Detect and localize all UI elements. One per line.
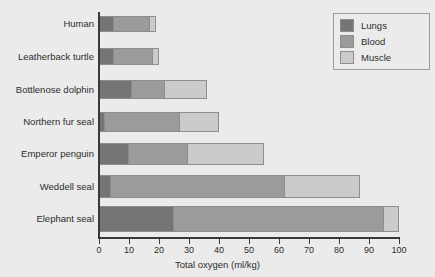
x-tick-mark (309, 239, 310, 244)
bar-segment-blood (111, 175, 285, 198)
x-tick-mark (189, 239, 190, 244)
bar-segment-lungs (99, 175, 111, 198)
y-axis-line (98, 12, 100, 239)
bar-segment-blood (114, 16, 150, 32)
bar-segment-blood (114, 48, 153, 65)
x-tick-label: 80 (334, 245, 344, 255)
bar-segment-lungs (99, 80, 132, 99)
x-tick-mark (219, 239, 220, 244)
x-tick-label: 100 (391, 245, 406, 255)
bar-segment-lungs (99, 48, 114, 65)
bar-segment-muscle (384, 206, 399, 232)
legend-item: Blood (340, 35, 425, 48)
x-tick-mark (129, 239, 130, 244)
x-tick-mark (279, 239, 280, 244)
legend-label: Muscle (361, 52, 391, 63)
bar-segment-lungs (99, 206, 174, 232)
bar-segment-muscle (285, 175, 360, 198)
legend-swatch-lungs (340, 19, 354, 32)
bar-segment-lungs (99, 16, 114, 32)
x-tick-label: 40 (214, 245, 224, 255)
legend-label: Blood (361, 36, 385, 47)
bar-row (99, 206, 399, 232)
x-tick-label: 50 (244, 245, 254, 255)
y-axis-label: Bottlenose dolphin (2, 84, 94, 95)
stacked-bar-chart: HumanLeatherback turtleBottlenose dolphi… (0, 0, 435, 277)
legend-label: Lungs (361, 20, 387, 31)
bar-segment-blood (132, 80, 165, 99)
bar-row (99, 175, 360, 198)
bar-row (99, 48, 159, 65)
y-axis-label: Emperor penguin (2, 148, 94, 159)
y-axis-label: Elephant seal (2, 213, 94, 224)
x-tick-label: 0 (96, 245, 101, 255)
bar-row (99, 112, 219, 132)
x-tick-mark (369, 239, 370, 244)
x-tick-label: 70 (304, 245, 314, 255)
x-tick-label: 60 (274, 245, 284, 255)
y-axis-label: Weddell seal (2, 181, 94, 192)
legend-swatch-muscle (340, 51, 354, 64)
x-tick-label: 30 (184, 245, 194, 255)
bar-segment-blood (105, 112, 180, 132)
y-axis-label: Northern fur seal (2, 116, 94, 127)
y-axis-label: Leatherback turtle (2, 51, 94, 62)
bar-segment-muscle (180, 112, 219, 132)
x-tick-label: 10 (124, 245, 134, 255)
x-tick-mark (99, 239, 100, 244)
legend-item: Lungs (340, 19, 425, 32)
x-tick-mark (399, 239, 400, 244)
x-tick-label: 90 (364, 245, 374, 255)
x-tick-mark (159, 239, 160, 244)
chart-legend: LungsBloodMuscle (333, 13, 430, 70)
y-axis-labels: HumanLeatherback turtleBottlenose dolphi… (0, 0, 94, 277)
bar-row (99, 143, 264, 165)
x-tick-label: 20 (154, 245, 164, 255)
bar-segment-muscle (150, 16, 156, 32)
bar-segment-muscle (153, 48, 159, 65)
y-axis-label: Human (2, 18, 94, 29)
legend-item: Muscle (340, 51, 425, 64)
bar-segment-muscle (188, 143, 265, 165)
x-tick-mark (339, 239, 340, 244)
bar-row (99, 80, 207, 99)
bar-row (99, 16, 156, 32)
bar-segment-blood (129, 143, 188, 165)
x-tick-mark (249, 239, 250, 244)
bar-segment-muscle (165, 80, 207, 99)
bar-segment-blood (174, 206, 384, 232)
legend-swatch-blood (340, 35, 354, 48)
bar-segment-lungs (99, 143, 129, 165)
x-axis-title: Total oxygen (ml/kg) (0, 259, 435, 270)
